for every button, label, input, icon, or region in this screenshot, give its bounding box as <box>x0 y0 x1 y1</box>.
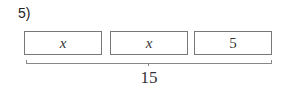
total-brace <box>26 60 272 64</box>
tape-box-3: 5 <box>194 31 272 55</box>
brace-center-tick <box>148 63 149 66</box>
tape-box-1: x <box>24 31 102 55</box>
tape-box-2: x <box>110 31 188 55</box>
total-value: 15 <box>0 68 282 88</box>
problem-number: 5) <box>18 5 30 21</box>
